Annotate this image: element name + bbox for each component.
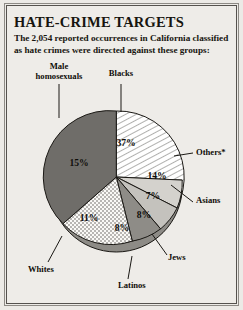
callout-label-whites: Whites <box>28 264 54 274</box>
callout-label-others: Others* <box>196 147 226 157</box>
value-label-jews: 8% <box>137 209 151 220</box>
value-label-male-homosexuals: 15% <box>69 157 88 168</box>
callout-label-asians: Asians <box>196 195 220 205</box>
value-label-asians: 7% <box>146 190 160 201</box>
callout-label-male-homosexuals: Male homosexuals <box>22 61 96 81</box>
leader-line-whites <box>48 236 62 262</box>
value-label-others: 14% <box>147 170 166 181</box>
infographic-card: HATE-CRIME TARGETS The 2,054 reported oc… <box>0 0 243 310</box>
callout-label-jews: Jews <box>168 252 186 262</box>
leader-line-jews <box>152 234 167 255</box>
value-label-blacks: 37% <box>116 137 135 148</box>
callout-label-latinos: Latinos <box>118 280 146 290</box>
page-subtitle: The 2,054 reported occurrences in Califo… <box>14 33 229 56</box>
pie-chart-area: 37% 14% 7% 8% 8% 11% 15% Male homosexual… <box>0 56 243 306</box>
page-title: HATE-CRIME TARGETS <box>14 14 184 31</box>
value-label-latinos: 8% <box>115 222 129 233</box>
value-label-whites: 11% <box>80 212 99 223</box>
callout-label-male-line1: Male <box>50 61 69 71</box>
leader-line-latinos <box>128 256 132 279</box>
card-content: HATE-CRIME TARGETS The 2,054 reported oc… <box>0 0 243 310</box>
callout-label-blacks: Blacks <box>98 68 144 78</box>
callout-label-male-line2: homosexuals <box>36 71 83 81</box>
